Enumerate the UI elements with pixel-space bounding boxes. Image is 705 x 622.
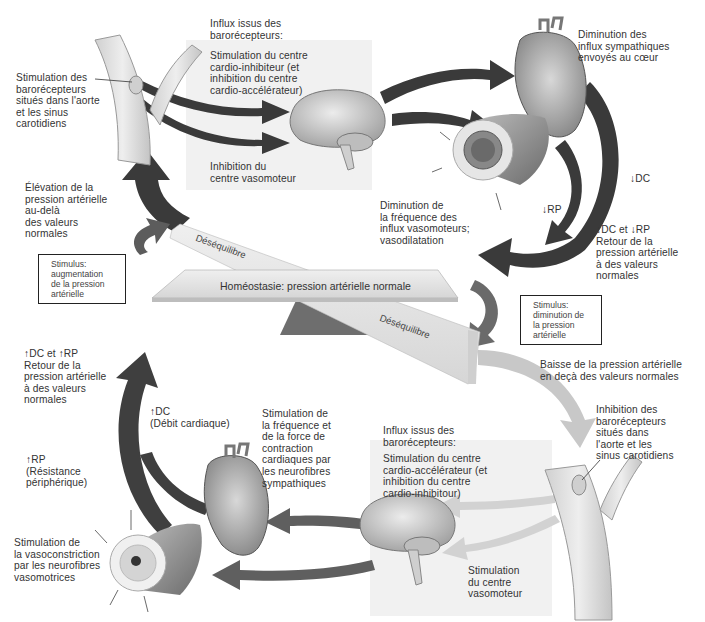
lower-aorta <box>545 455 642 620</box>
lower-drop-label: Baisse de la pression artérielle en deçà… <box>540 359 682 382</box>
upper-cardio-label: Stimulation du centre cardio-inhibiteur … <box>210 50 308 96</box>
upper-vasomotor-label: Inhibition du centre vasomoteur <box>210 161 296 184</box>
upper-dc-label: ↓DC <box>630 173 650 185</box>
upper-influx-header: Influx issus des barorécepteurs: <box>210 18 283 41</box>
lower-vessel <box>95 510 202 612</box>
lower-return-label: ↑DC et ↑RP Retour de la pression artérie… <box>24 348 106 406</box>
upper-return-label: ↓DC et ↓RP Retour de la pression artérie… <box>596 224 678 282</box>
lower-vessel-label: Stimulation de la vasoconstriction par l… <box>14 537 100 583</box>
upper-vessel-label: Diminution de la fréquence des influx va… <box>380 200 470 246</box>
lower-vasomotor-label: Stimulation du centre vasomoteur <box>468 565 522 600</box>
stimulus-increase-box: Stimulus: augmentation de la pression ar… <box>38 254 126 304</box>
stimulus-decrease-box: Stimulus: diminution de la pression arté… <box>520 295 602 345</box>
upper-rp-label: ↓RP <box>542 204 562 216</box>
lower-rp-label: ↑RP (Résistance périphérique) <box>26 454 87 489</box>
upper-rise-label: Élévation de la pression artérielle au-d… <box>25 182 107 240</box>
lower-dc-label: ↑DC (Débit cardiaque) <box>150 406 230 429</box>
upper-baroreceptor-label: Stimulation des barorécepteurs situés da… <box>16 72 100 130</box>
lower-baroreceptor-label: Inhibition des barorécepteurs situés dan… <box>596 404 674 462</box>
lower-heart-label: Stimulation de la fréquence et de la for… <box>262 408 331 489</box>
lower-brain <box>360 494 455 585</box>
upper-brain <box>290 90 385 170</box>
upper-vessel <box>432 114 549 210</box>
lower-cardio-label: Stimulation du centre cardio-accélérateu… <box>383 453 487 499</box>
seesaw <box>152 224 480 384</box>
upper-heart-label: Diminution des influx sympathiques envoy… <box>578 29 669 64</box>
lower-influx-header: Influx issus des barorécepteurs: <box>383 425 456 448</box>
lower-heart <box>204 444 268 555</box>
seesaw-center-label: Homéostasie: pression artérielle normale <box>220 280 411 292</box>
